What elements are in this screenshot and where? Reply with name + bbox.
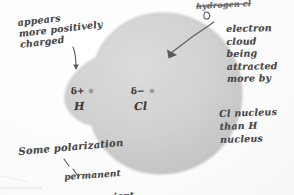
arrow-to-cloud bbox=[171, 22, 214, 53]
annotation-transient: transient bbox=[83, 190, 135, 195]
cl-element-label: Cl bbox=[134, 100, 147, 113]
h-nucleus-dot bbox=[89, 89, 93, 93]
h-partial-charge-label: δ+ bbox=[71, 86, 85, 96]
annotation-right-lower: Cl nucleus than H nucleus bbox=[219, 106, 278, 146]
curl-mark bbox=[204, 12, 210, 19]
cl-nucleus-dot bbox=[150, 89, 154, 93]
annotation-not: not bbox=[65, 194, 83, 195]
annotation-permanent: permanent bbox=[64, 168, 121, 182]
cl-partial-charge-label: δ− bbox=[131, 86, 145, 96]
annotation-bottom-sub: permanent not transient bbox=[63, 155, 135, 195]
annotation-right-upper: electron cloud being attracted more by bbox=[226, 22, 278, 86]
h-element-label: H bbox=[74, 100, 85, 114]
paper-crease bbox=[0, 176, 28, 182]
